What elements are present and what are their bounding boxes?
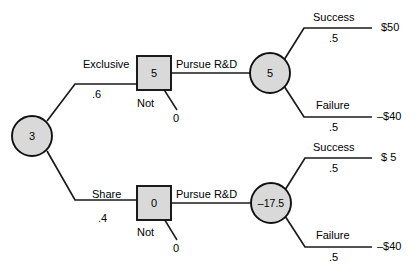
terminal-payoff-success-lower: $ 5 [381, 151, 396, 163]
branch-probability-share: .4 [98, 212, 107, 224]
branch-label-not-upper: Not [137, 97, 154, 109]
branch-label-pursue-rnd-lower: Pursue R&D [176, 188, 237, 200]
edge-exclusive-not [163, 88, 177, 110]
outcome-label-failure-upper: Failure [316, 99, 350, 111]
share-decision-node-value: 0 [151, 197, 157, 209]
decision-tree-canvas: 3 5 5 0 –17.5 [0, 0, 417, 270]
terminal-payoff-failure-upper: –$40 [377, 110, 401, 122]
branch-label-share: Share [92, 188, 121, 200]
outcome-probability-success-lower: .5 [329, 162, 338, 174]
terminal-payoff-success-upper: $50 [381, 21, 399, 33]
outcome-probability-success-upper: .5 [329, 32, 338, 44]
outcome-label-success-lower: Success [313, 141, 355, 153]
outcome-probability-failure-lower: .5 [329, 251, 338, 263]
outcome-label-failure-lower: Failure [316, 229, 350, 241]
exclusive-chance-node-value: 5 [267, 67, 273, 79]
exclusive-decision-node-value: 5 [151, 67, 157, 79]
edge-exclusive-success [284, 28, 372, 60]
outcome-label-success-upper: Success [313, 11, 355, 23]
branch-probability-exclusive: .6 [92, 88, 101, 100]
outcome-probability-failure-upper: .5 [329, 121, 338, 133]
root-chance-node-value: 3 [29, 130, 35, 142]
branch-label-exclusive: Exclusive [83, 58, 129, 70]
branch-label-not-lower: Not [137, 226, 154, 238]
share-chance-node-value: –17.5 [258, 197, 284, 209]
terminal-payoff-failure-lower: –$40 [377, 240, 401, 252]
branch-label-pursue-rnd-upper: Pursue R&D [176, 58, 237, 70]
terminal-payoff-not-upper: 0 [173, 112, 179, 124]
decision-tree-diagram: 3 5 5 0 –17.5 Exclusive .6 Pursue R&D No… [0, 0, 417, 270]
terminal-payoff-not-lower: 0 [173, 242, 179, 254]
